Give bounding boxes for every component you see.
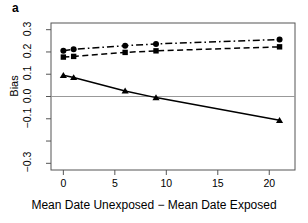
data-point-circle [71, 46, 77, 52]
y-tick-label: −0.3 [21, 145, 33, 179]
series-layer [60, 36, 283, 122]
x-tick-label: 20 [254, 177, 284, 189]
x-tick-label: 10 [151, 177, 181, 189]
series-square [61, 44, 283, 60]
series-triangle [60, 72, 283, 123]
data-point-square [153, 48, 158, 53]
x-tick-label: 15 [203, 177, 233, 189]
x-tick-label: 5 [100, 177, 130, 189]
chart-figure: a Bias Mean Date Unexposed − Mean Date E… [0, 0, 308, 223]
plot-area [0, 0, 308, 223]
data-point-circle [122, 43, 128, 49]
data-point-square [61, 54, 66, 59]
data-point-circle [153, 41, 159, 47]
data-point-square [71, 54, 76, 59]
series-circle [60, 36, 282, 53]
y-axis [46, 30, 51, 164]
data-point-circle [277, 36, 283, 42]
data-point-square [277, 44, 282, 49]
data-point-square [122, 50, 127, 55]
data-point-triangle [60, 72, 67, 78]
x-axis [63, 170, 269, 175]
x-tick-label: 0 [48, 177, 78, 189]
y-tick-label: −0.1 [21, 101, 33, 135]
data-point-circle [60, 48, 66, 54]
